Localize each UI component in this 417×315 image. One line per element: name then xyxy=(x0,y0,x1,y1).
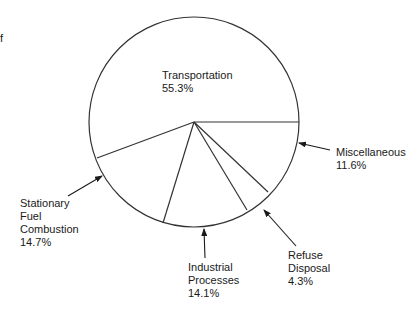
label-value: 14.7% xyxy=(20,236,79,249)
label-industrial-processes: Industrial Processes 14.1% xyxy=(188,261,239,300)
callout-arrows xyxy=(68,143,330,258)
label-value: 4.3% xyxy=(288,275,330,288)
arrow-miscellaneous xyxy=(299,143,330,150)
label-name-1: Stationary xyxy=(20,197,79,210)
arrow-refuse xyxy=(264,210,296,246)
slice-dividers xyxy=(97,122,299,223)
label-name-2: Processes xyxy=(188,274,239,287)
label-miscellaneous: Miscellaneous 11.6% xyxy=(336,146,406,172)
label-name-2: Disposal xyxy=(288,262,330,275)
label-value: 11.6% xyxy=(336,159,406,172)
label-name-2: Fuel xyxy=(20,210,79,223)
arrow-stationary xyxy=(68,176,102,196)
left-edge-fragment: f xyxy=(0,32,3,45)
label-name-3: Combustion xyxy=(20,223,79,236)
label-stationary-fuel-combustion: Stationary Fuel Combustion 14.7% xyxy=(20,197,79,249)
label-value: 55.3% xyxy=(162,82,233,95)
arrow-industrial xyxy=(204,229,205,258)
label-name: Miscellaneous xyxy=(336,146,406,159)
label-value: 14.1% xyxy=(188,287,239,300)
label-refuse-disposal: Refuse Disposal 4.3% xyxy=(288,249,330,288)
label-name-1: Refuse xyxy=(288,249,330,262)
label-transportation: Transportation 55.3% xyxy=(162,69,233,95)
label-name-1: Industrial xyxy=(188,261,239,274)
label-name: Transportation xyxy=(162,69,233,82)
